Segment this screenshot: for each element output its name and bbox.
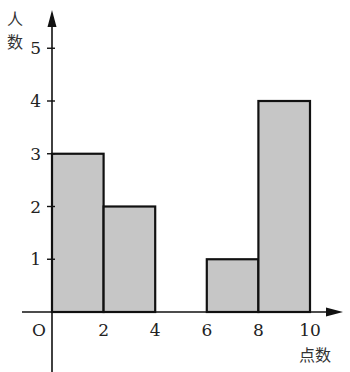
y-tick-label: 2 bbox=[30, 197, 41, 217]
x-tick-label: 2 bbox=[98, 320, 109, 340]
x-tick-label: 6 bbox=[201, 320, 212, 340]
y-axis-title-line1: 人 bbox=[7, 10, 23, 29]
histogram-bar bbox=[207, 259, 259, 312]
x-axis-title: 点数 bbox=[299, 346, 331, 365]
y-tick-label: 4 bbox=[30, 91, 41, 111]
y-tick-label: 5 bbox=[30, 38, 41, 58]
y-tick-label: 1 bbox=[30, 249, 41, 269]
x-ticks-group: 246810 bbox=[98, 320, 321, 340]
histogram-bar bbox=[104, 207, 156, 313]
y-axis-arrow-icon bbox=[48, 10, 57, 27]
histogram-bar bbox=[52, 154, 104, 312]
x-tick-label: 4 bbox=[150, 320, 161, 340]
histogram-bar bbox=[258, 101, 310, 312]
x-axis-arrow-icon bbox=[326, 308, 343, 317]
x-tick-label: 8 bbox=[253, 320, 264, 340]
y-tick-label: 3 bbox=[30, 144, 41, 164]
bars-group bbox=[52, 101, 310, 312]
y-axis-title-line2: 数 bbox=[7, 33, 23, 52]
histogram-chart: 12345 246810 O 人 数 点数 bbox=[0, 0, 350, 372]
x-tick-label: 10 bbox=[299, 320, 321, 340]
origin-label: O bbox=[32, 320, 46, 340]
